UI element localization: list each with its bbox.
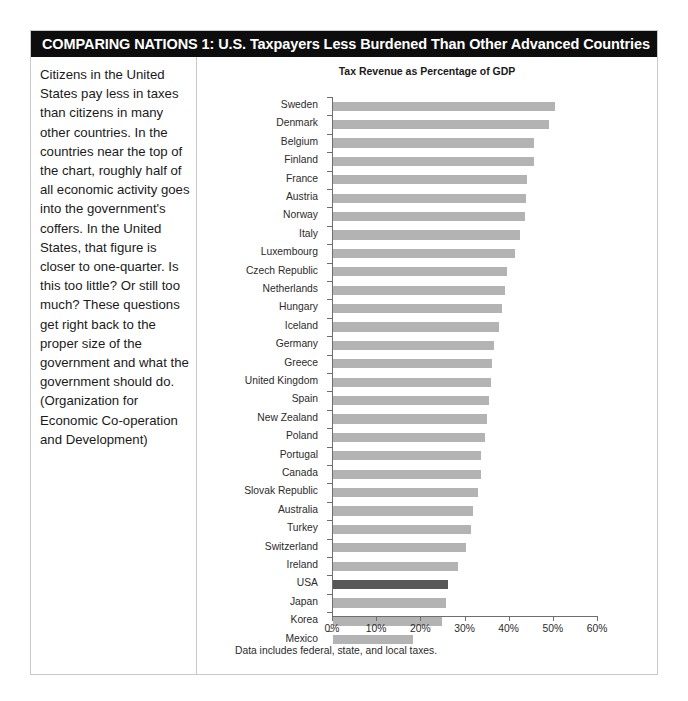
bar-category-label: Netherlands xyxy=(262,283,318,294)
y-axis-tick xyxy=(327,594,332,595)
bar-row: Canada xyxy=(197,465,657,483)
x-axis-tick-label: 0% xyxy=(325,623,340,634)
bar-row: Austria xyxy=(197,189,657,207)
bar-category-label: Denmark xyxy=(276,117,318,128)
chart-column: Tax Revenue as Percentage of GDP SwedenD… xyxy=(197,57,657,674)
bar-row: Germany xyxy=(197,336,657,354)
y-axis-tick xyxy=(327,355,332,356)
x-axis-tick-label: 20% xyxy=(410,623,431,634)
bar xyxy=(333,543,466,552)
x-axis-tick xyxy=(597,616,598,621)
x-axis-tick-label: 10% xyxy=(366,623,387,634)
bar-row: Japan xyxy=(197,594,657,612)
caption-paragraph: Citizens in the United States pay less i… xyxy=(40,65,190,449)
bar-category-label: United Kingdom xyxy=(245,375,318,386)
x-axis-tick xyxy=(332,616,333,621)
bar-category-label: Spain xyxy=(292,393,318,404)
bar-category-label: Sweden xyxy=(281,99,318,110)
y-axis-tick xyxy=(327,447,332,448)
bar-row: France xyxy=(197,171,657,189)
y-axis-tick xyxy=(327,612,332,613)
y-axis-tick xyxy=(327,299,332,300)
bar-category-label: Norway xyxy=(283,209,318,220)
y-axis-tick xyxy=(327,336,332,337)
bar-row: Sweden xyxy=(197,97,657,115)
bar-row: Greece xyxy=(197,355,657,373)
bar-row: Iceland xyxy=(197,318,657,336)
bar-row: Hungary xyxy=(197,299,657,317)
bar-category-label: Iceland xyxy=(285,320,318,331)
chart-footnote: Data includes federal, state, and local … xyxy=(235,645,437,656)
bar-category-label: Turkey xyxy=(287,522,318,533)
bar xyxy=(333,341,494,350)
y-axis-tick xyxy=(327,391,332,392)
bar xyxy=(333,562,458,571)
bar xyxy=(333,451,481,460)
bar xyxy=(333,488,478,497)
card-title-bar: COMPARING NATIONS 1: U.S. Taxpayers Less… xyxy=(31,31,657,57)
infographic-card: COMPARING NATIONS 1: U.S. Taxpayers Less… xyxy=(30,30,658,675)
bar xyxy=(333,138,534,147)
bar-category-label: France xyxy=(286,173,318,184)
y-axis-tick xyxy=(327,281,332,282)
bar-category-label: Mexico xyxy=(285,633,318,644)
x-axis-tick-label: 40% xyxy=(498,623,519,634)
bar-row: Czech Republic xyxy=(197,263,657,281)
y-axis-tick xyxy=(327,539,332,540)
bar-category-label: Luxembourg xyxy=(261,246,318,257)
caption-column: Citizens in the United States pay less i… xyxy=(31,57,197,674)
bar xyxy=(333,433,485,442)
bar xyxy=(333,414,487,423)
bar-category-label: Poland xyxy=(286,430,318,441)
bar-row: Portugal xyxy=(197,447,657,465)
bar-row: Poland xyxy=(197,428,657,446)
x-axis-tick xyxy=(509,616,510,621)
x-axis-tick xyxy=(376,616,377,621)
bar xyxy=(333,102,555,111)
x-axis-tick-label: 30% xyxy=(454,623,475,634)
bar xyxy=(333,304,502,313)
bar xyxy=(333,120,549,129)
bar xyxy=(333,378,491,387)
bar xyxy=(333,525,471,534)
y-axis-tick xyxy=(327,465,332,466)
bar-category-label: Germany xyxy=(276,338,318,349)
bar-row: Slovak Republic xyxy=(197,483,657,501)
bar-category-label: Australia xyxy=(278,504,318,515)
card-title: COMPARING NATIONS 1: U.S. Taxpayers Less… xyxy=(31,36,650,52)
bar-category-label: Belgium xyxy=(281,136,318,147)
bar-row: Denmark xyxy=(197,115,657,133)
x-axis-tick xyxy=(553,616,554,621)
y-axis-tick xyxy=(327,171,332,172)
bar xyxy=(333,286,505,295)
y-axis-tick xyxy=(327,483,332,484)
y-axis-tick xyxy=(327,520,332,521)
bar-row: Turkey xyxy=(197,520,657,538)
bar-category-label: USA xyxy=(297,577,318,588)
bar xyxy=(333,359,492,368)
bar xyxy=(333,194,526,203)
x-axis-tick xyxy=(420,616,421,621)
bar-row: USA xyxy=(197,575,657,593)
bar-category-label: Portugal xyxy=(280,449,318,460)
y-axis-tick xyxy=(327,134,332,135)
x-axis-tick-label: 50% xyxy=(543,623,564,634)
bar-category-label: Switzerland xyxy=(265,541,318,552)
bar xyxy=(333,267,507,276)
bar-row: Switzerland xyxy=(197,539,657,557)
bar-row: Finland xyxy=(197,152,657,170)
y-axis-tick xyxy=(327,318,332,319)
bar-row: Netherlands xyxy=(197,281,657,299)
y-axis-tick xyxy=(327,226,332,227)
bar xyxy=(333,322,499,331)
bar-row: Luxembourg xyxy=(197,244,657,262)
bar-category-label: Korea xyxy=(291,614,318,625)
bar-row: United Kingdom xyxy=(197,373,657,391)
x-axis-tick xyxy=(465,616,466,621)
bar xyxy=(333,580,448,589)
bar-row: New Zealand xyxy=(197,410,657,428)
bar xyxy=(333,249,515,258)
bar-category-label: Hungary xyxy=(279,301,318,312)
bar xyxy=(333,396,489,405)
bar xyxy=(333,175,527,184)
